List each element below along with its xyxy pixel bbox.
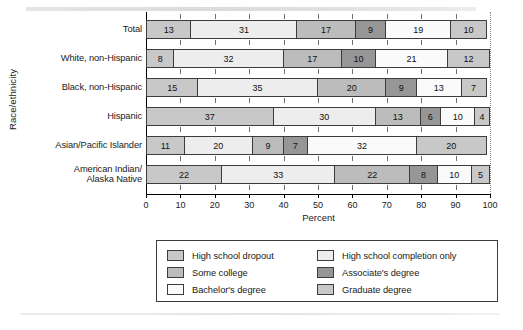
category-label: Hispanic <box>16 111 142 122</box>
x-axis-label: Percent <box>146 212 491 223</box>
bar-segment: 13 <box>376 108 420 125</box>
interior-tick <box>318 185 319 190</box>
bar-row: 1120973220 <box>146 136 487 155</box>
interior-tick <box>456 40 457 45</box>
interior-tick <box>421 98 422 103</box>
category-label-line: Asian/Pacific Islander <box>16 140 142 151</box>
interior-tick <box>318 14 319 19</box>
x-tick <box>180 194 181 198</box>
bar-segment: 9 <box>386 79 417 96</box>
bar-segment: 13 <box>147 21 191 38</box>
bar-segment: 8 <box>147 50 174 67</box>
legend-label: Bachelor's degree <box>192 285 266 295</box>
x-tick <box>352 194 353 198</box>
bar-segment: 17 <box>284 50 342 67</box>
x-tick <box>421 194 422 198</box>
bar-row: 3730136104 <box>146 107 490 126</box>
legend-label: Associate's degree <box>342 268 419 278</box>
interior-tick <box>352 40 353 45</box>
interior-tick <box>456 156 457 161</box>
bar-segment: 22 <box>147 166 222 183</box>
legend-swatch <box>317 284 334 295</box>
interior-tick <box>352 127 353 132</box>
bar-row: 13311791910 <box>146 20 487 39</box>
bar-row: 1535209137 <box>146 78 487 97</box>
bar-segment: 11 <box>147 137 185 154</box>
legend-item: Associate's degree <box>317 264 497 281</box>
interior-tick <box>215 14 216 19</box>
right-boundary-dotted-line <box>490 12 491 194</box>
interior-tick <box>215 185 216 190</box>
bar-segment: 6 <box>421 108 442 125</box>
x-tick-label: 40 <box>279 200 289 210</box>
scan-artifact-bottom <box>20 313 500 315</box>
bar-segment: 10 <box>451 21 485 38</box>
scan-artifact-top <box>26 7 476 11</box>
interior-tick <box>421 156 422 161</box>
category-label-line: American Indian/ <box>16 164 142 175</box>
bar-segment: 17 <box>297 21 355 38</box>
legend-swatch <box>167 267 184 278</box>
bar-segment: 20 <box>318 79 386 96</box>
interior-tick <box>180 98 181 103</box>
legend-item: Some college <box>167 264 317 281</box>
interior-tick <box>249 98 250 103</box>
bar-segment: 35 <box>198 79 318 96</box>
x-tick-label: 20 <box>210 200 220 210</box>
bar-segment: 32 <box>308 137 417 154</box>
bar-segment: 19 <box>386 21 451 38</box>
x-tick <box>249 194 250 198</box>
x-tick-label: 30 <box>244 200 254 210</box>
bar-segment: 12 <box>448 50 489 67</box>
x-tick-label: 50 <box>313 200 323 210</box>
category-label-line: Black, non-Hispanic <box>16 82 142 93</box>
bar-segment: 15 <box>147 79 198 96</box>
bar-segment: 22 <box>335 166 410 183</box>
x-tick-label: 60 <box>347 200 357 210</box>
interior-tick <box>180 69 181 74</box>
bar-segment: 31 <box>191 21 297 38</box>
category-label: American Indian/Alaska Native <box>16 164 142 185</box>
bar-segment: 7 <box>284 137 308 154</box>
interior-tick <box>387 14 388 19</box>
interior-tick <box>180 40 181 45</box>
legend-item: High school completion only <box>317 247 497 264</box>
interior-tick <box>284 185 285 190</box>
x-tick <box>387 194 388 198</box>
bar-segment: 37 <box>147 108 274 125</box>
legend-item: High school dropout <box>167 247 317 264</box>
interior-tick <box>249 156 250 161</box>
bar-segment: 9 <box>356 21 387 38</box>
bar-segment: 32 <box>174 50 283 67</box>
bar-segment: 21 <box>376 50 448 67</box>
category-label-column: TotalWhite, non-HispanicBlack, non-Hispa… <box>16 12 142 194</box>
legend-label: High school completion only <box>342 251 456 261</box>
interior-tick <box>249 69 250 74</box>
x-tick <box>146 194 147 198</box>
interior-tick <box>352 69 353 74</box>
bar-segment: 10 <box>441 108 475 125</box>
interior-tick <box>284 69 285 74</box>
interior-tick <box>421 40 422 45</box>
category-label: Black, non-Hispanic <box>16 82 142 93</box>
stacked-bar-chart: Race/ethnicity TotalWhite, non-HispanicB… <box>0 12 523 212</box>
interior-tick <box>284 127 285 132</box>
interior-tick <box>387 156 388 161</box>
category-label-line: Hispanic <box>16 111 142 122</box>
x-tick-label: 70 <box>382 200 392 210</box>
bar-segment: 30 <box>274 108 377 125</box>
interior-tick <box>249 14 250 19</box>
category-label-line: Total <box>16 24 142 35</box>
interior-tick <box>456 185 457 190</box>
legend-swatch <box>317 250 334 261</box>
interior-tick <box>456 69 457 74</box>
interior-tick <box>215 156 216 161</box>
legend-swatch <box>167 284 184 295</box>
x-tick <box>490 194 491 198</box>
category-label: Asian/Pacific Islander <box>16 140 142 151</box>
interior-tick <box>421 69 422 74</box>
interior-tick <box>318 156 319 161</box>
x-tick <box>318 194 319 198</box>
x-tick <box>456 194 457 198</box>
interior-tick <box>318 98 319 103</box>
